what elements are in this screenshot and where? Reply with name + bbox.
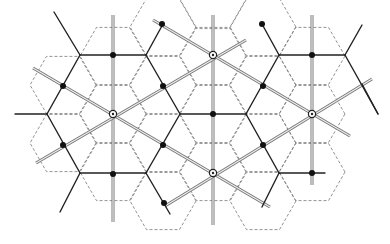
dashed-hexagon [130, 0, 196, 56]
ring-node-center [112, 113, 114, 115]
filled-node-dot [161, 200, 167, 206]
solid-hexagon-edges [15, 12, 378, 214]
filled-node-dot [160, 83, 166, 89]
dashed-hexagon-grid [30, 0, 345, 230]
ring-node-center [212, 54, 214, 56]
filled-node-dot [260, 83, 266, 89]
axis-line-inner [33, 68, 270, 207]
solid-edge [362, 84, 378, 114]
solid-edge [146, 24, 163, 55]
filled-node-dot [160, 142, 166, 148]
solid-edge [60, 173, 80, 212]
solid-edge [146, 173, 170, 214]
tiling-diagram [0, 0, 390, 244]
dashed-hexagon [230, 172, 296, 229]
filled-node-dot [110, 171, 116, 177]
filled-node-dot [60, 83, 66, 89]
filled-node-dot [259, 21, 265, 27]
filled-node-dot [110, 52, 116, 58]
filled-node-dot [210, 111, 216, 117]
solid-edge [262, 173, 279, 207]
ring-node-center [212, 172, 214, 174]
solid-edge [345, 25, 362, 55]
filled-node-dot [60, 142, 66, 148]
solid-edge [262, 24, 279, 55]
dashed-hexagon [230, 0, 296, 56]
ring-node-center [311, 113, 313, 115]
solid-edge [54, 12, 80, 55]
filled-node-dot [309, 170, 315, 176]
filled-node-dot [309, 52, 315, 58]
hexagonal-tiling-figure [0, 0, 390, 244]
filled-node-dot [260, 142, 266, 148]
filled-node-dot [159, 21, 165, 27]
